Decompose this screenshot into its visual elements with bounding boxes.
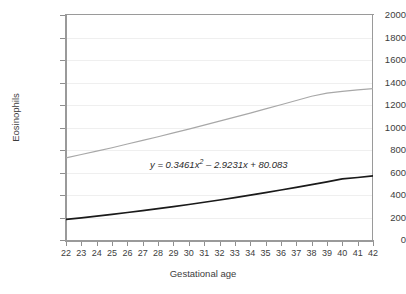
equation-term2-sign: –: [206, 159, 211, 170]
x-axis-title: Gestational age: [0, 268, 406, 279]
series-line-upper-trend: [66, 89, 373, 158]
equation-lhs: y: [150, 159, 155, 170]
series-line-lower-trend: [66, 176, 373, 220]
equation-equals: =: [157, 159, 163, 170]
series-curves: [0, 0, 406, 294]
equation-term2-var: x: [243, 159, 248, 170]
equation-term1-exponent: 2: [199, 158, 203, 165]
equation-term1-coef: 0.3461: [166, 159, 195, 170]
equation-term3-sign: +: [250, 159, 256, 170]
equation-term2-coef: 2.9231: [214, 159, 243, 170]
y-axis-title: Eosinophils: [10, 63, 21, 173]
chart-container: 0200400600800100012001400160018002000 22…: [0, 0, 406, 294]
equation-term3-value: 80.083: [259, 159, 288, 170]
trendline-equation: y = 0.3461x2 – 2.9231x + 80.083: [150, 158, 288, 170]
